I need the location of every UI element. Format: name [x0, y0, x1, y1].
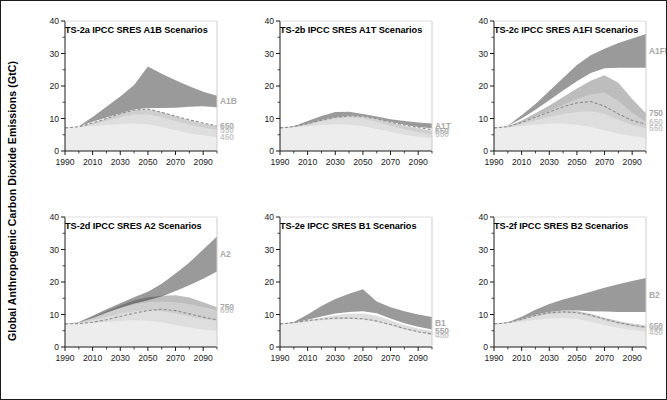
y-tick-label: 20 [49, 81, 59, 91]
chart-panel-b2: 010203040199020102030205020702090B265055… [452, 199, 666, 395]
panel-title-ts-2d: TS-2d IPCC SRES A2 Scenarios [65, 221, 202, 231]
x-tick-label: 2090 [409, 353, 428, 363]
x-tick-label: 1990 [270, 157, 289, 167]
y-tick-label: 0 [269, 146, 274, 156]
band-label-b2: B2 [649, 290, 660, 300]
band-label-a1fi: A1FI [649, 46, 666, 56]
chart-panel-b1: 010203040199020102030205020702090B155045… [238, 199, 452, 395]
x-tick-label: 2090 [194, 157, 213, 167]
y-tick-label: 20 [478, 277, 488, 287]
x-tick-label: 1990 [55, 157, 74, 167]
x-tick-label: 2010 [512, 353, 531, 363]
x-tick-label: 1990 [55, 353, 74, 363]
panel-title-ts-2a: TS-2a IPCC SRES A1B Scenarios [65, 25, 208, 35]
y-tick-label: 10 [264, 310, 274, 320]
y-tick-label: 30 [49, 245, 59, 255]
x-tick-label: 2070 [381, 353, 400, 363]
x-tick-label: 2070 [381, 157, 400, 167]
x-tick-label: 2010 [298, 353, 317, 363]
y-tick-label: 20 [264, 81, 274, 91]
x-tick-label: 2030 [540, 157, 559, 167]
chart-panel-a1b: 010203040199020102030205020702090A1B6505… [23, 3, 237, 199]
y-tick-label: 20 [478, 81, 488, 91]
band-label-550: 550 [435, 129, 449, 139]
x-tick-label: 2030 [111, 157, 130, 167]
panel-title-ts-2f: TS-2f IPCC SRES B2 Scenarios [494, 221, 628, 231]
x-tick-label: 2010 [83, 157, 102, 167]
y-tick-label: 40 [49, 212, 59, 222]
x-tick-label: 2050 [353, 157, 372, 167]
x-tick-label: 2010 [298, 157, 317, 167]
y-tick-label: 10 [478, 310, 488, 320]
band-label-450: 450 [220, 132, 234, 142]
y-tick-label: 30 [264, 245, 274, 255]
y-tick-label: 0 [483, 342, 488, 352]
x-tick-label: 2070 [166, 157, 185, 167]
band-label-a2: A2 [220, 249, 231, 259]
x-tick-label: 1990 [484, 353, 503, 363]
x-tick-label: 2010 [83, 353, 102, 363]
panel-title-ts-2c: TS-2c IPCC SRES A1FI Scenarios [494, 25, 638, 35]
y-tick-label: 20 [49, 277, 59, 287]
y-tick-label: 30 [478, 245, 488, 255]
x-tick-label: 2090 [409, 157, 428, 167]
x-tick-label: 2050 [138, 157, 157, 167]
y-tick-label: 40 [478, 212, 488, 222]
x-tick-label: 2030 [326, 157, 345, 167]
panel-title-ts-2e: TS-2e IPCC SRES B1 Scenarios [280, 221, 416, 231]
chart-panel-a1t: 010203040199020102030205020702090A1T6505… [238, 3, 452, 199]
band-label-550: 550 [649, 123, 663, 133]
x-tick-label: 2050 [567, 157, 586, 167]
y-tick-label: 20 [264, 277, 274, 287]
y-axis-title: Global Anthropogenic Carbon Dioxide Emis… [1, 1, 23, 400]
panel-title-ts-2b: TS-2b IPCC SRES A1T Scenarios [280, 25, 422, 35]
x-tick-label: 2030 [326, 353, 345, 363]
x-tick-label: 2050 [353, 353, 372, 363]
x-tick-label: 2090 [623, 353, 642, 363]
y-axis-title-text: Global Anthropogenic Carbon Dioxide Emis… [6, 61, 18, 341]
y-tick-label: 30 [264, 49, 274, 59]
y-tick-label: 40 [478, 16, 488, 26]
x-tick-label: 2050 [138, 353, 157, 363]
y-tick-label: 0 [54, 146, 59, 156]
y-tick-label: 10 [478, 114, 488, 124]
x-tick-label: 1990 [270, 353, 289, 363]
x-tick-label: 1990 [484, 157, 503, 167]
band-label-450: 450 [649, 327, 663, 337]
y-tick-label: 10 [264, 114, 274, 124]
y-tick-label: 0 [483, 146, 488, 156]
y-tick-label: 10 [49, 114, 59, 124]
x-tick-label: 2070 [595, 353, 614, 363]
x-tick-label: 2070 [595, 157, 614, 167]
y-tick-label: 40 [264, 16, 274, 26]
band-label-a1b: A1B [220, 96, 237, 106]
y-tick-label: 10 [49, 310, 59, 320]
x-tick-label: 2070 [166, 353, 185, 363]
y-tick-label: 0 [54, 342, 59, 352]
y-tick-label: 30 [49, 49, 59, 59]
y-tick-label: 0 [269, 342, 274, 352]
y-tick-label: 40 [49, 16, 59, 26]
band-label-450: 450 [435, 330, 449, 340]
x-tick-label: 2050 [567, 353, 586, 363]
chart-panel-a1fi: 010203040199020102030205020702090A1FI750… [452, 3, 666, 199]
chart-panel-a2: 010203040199020102030205020702090A275065… [23, 199, 237, 395]
panel-grid: 010203040199020102030205020702090A1B6505… [23, 3, 666, 399]
x-tick-label: 2090 [623, 157, 642, 167]
x-tick-label: 2030 [111, 353, 130, 363]
figure-frame: Global Anthropogenic Carbon Dioxide Emis… [0, 0, 667, 400]
y-tick-label: 30 [478, 49, 488, 59]
y-tick-label: 40 [264, 212, 274, 222]
x-tick-label: 2030 [540, 353, 559, 363]
x-tick-label: 2090 [194, 353, 213, 363]
x-tick-label: 2010 [512, 157, 531, 167]
band-label-650: 650 [220, 305, 234, 315]
